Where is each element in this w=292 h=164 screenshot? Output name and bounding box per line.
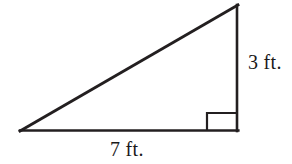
- triangle-drawing: [0, 0, 292, 164]
- base-dimension-label: 7 ft.: [110, 139, 144, 159]
- height-dimension-label: 3 ft.: [248, 52, 282, 72]
- right-angle-marker-icon: [207, 113, 237, 130]
- right-triangle-figure: 3 ft. 7 ft.: [0, 0, 292, 164]
- hypotenuse-line: [20, 5, 238, 131]
